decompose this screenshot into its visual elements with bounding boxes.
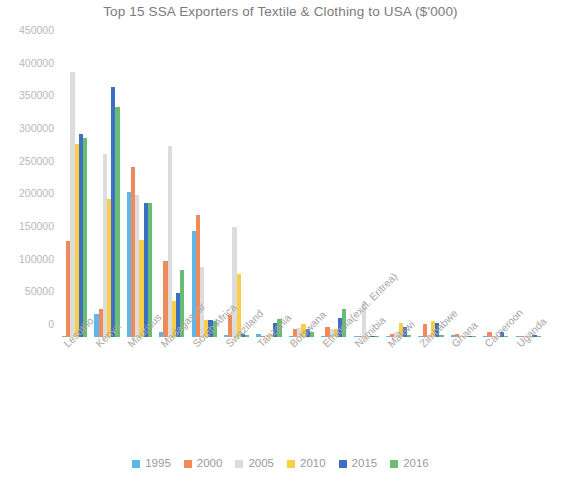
chart-legend: 199520002005201020152016 — [0, 458, 561, 470]
bar-group — [321, 43, 346, 337]
legend-item[interactable]: 2015 — [339, 458, 378, 470]
bar-group — [256, 43, 281, 337]
bar-group — [94, 43, 119, 337]
legend-item[interactable]: 1995 — [132, 458, 171, 470]
y-axis-tick: 200000 — [19, 187, 54, 199]
y-axis-tick: 450000 — [19, 24, 54, 36]
y-axis-tick: 150000 — [19, 220, 54, 232]
legend-label: 2016 — [403, 458, 429, 470]
bar-group — [289, 43, 314, 337]
legend-label: 2000 — [197, 458, 223, 470]
bar-group — [127, 43, 152, 337]
bar-group — [386, 43, 411, 337]
legend-item[interactable]: 2010 — [287, 458, 326, 470]
legend-swatch-icon — [184, 460, 192, 468]
bar-group — [483, 43, 508, 337]
legend-item[interactable]: 2005 — [235, 458, 274, 470]
legend-swatch-icon — [235, 460, 243, 468]
chart-title: Top 15 SSA Exporters of Textile & Clothi… — [0, 4, 561, 19]
bar-group — [418, 43, 443, 337]
y-axis: 4500004000003500003000002500002000001500… — [0, 30, 58, 350]
legend-item[interactable]: 2016 — [390, 458, 429, 470]
bar-group — [451, 43, 476, 337]
y-axis-tick: 100000 — [19, 253, 54, 265]
legend-label: 2010 — [300, 458, 326, 470]
bar-group — [62, 43, 87, 337]
chart-container: Top 15 SSA Exporters of Textile & Clothi… — [0, 0, 561, 482]
bar[interactable] — [115, 107, 119, 337]
legend-swatch-icon — [132, 460, 140, 468]
legend-swatch-icon — [339, 460, 347, 468]
y-axis-tick: 250000 — [19, 155, 54, 167]
plot-area — [62, 43, 557, 337]
legend-label: 2015 — [352, 458, 378, 470]
y-axis-tick: 0 — [48, 318, 54, 330]
legend-swatch-icon — [287, 460, 295, 468]
bar-group — [159, 43, 184, 337]
bar-group — [224, 43, 249, 337]
legend-item[interactable]: 2000 — [184, 458, 223, 470]
legend-label: 2005 — [248, 458, 274, 470]
y-axis-tick: 400000 — [19, 57, 54, 69]
y-axis-tick: 350000 — [19, 89, 54, 101]
y-axis-tick: 300000 — [19, 122, 54, 134]
legend-swatch-icon — [390, 460, 398, 468]
y-axis-tick: 50000 — [25, 285, 54, 297]
bar-group — [192, 43, 217, 337]
legend-label: 1995 — [145, 458, 171, 470]
bar[interactable] — [83, 138, 87, 337]
x-axis-labels: LesothoKenyaMauritiusMadagascarSouth Afr… — [0, 337, 561, 427]
bar-group — [516, 43, 541, 337]
